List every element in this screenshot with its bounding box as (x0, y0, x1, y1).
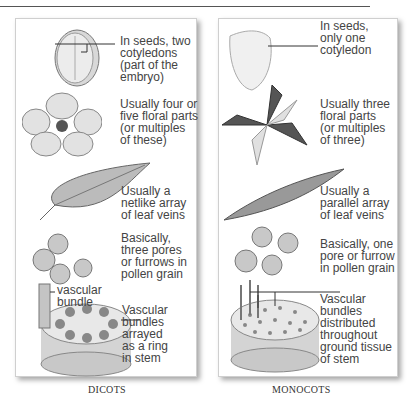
dicot-bundle-label: vascular bundle (57, 284, 102, 308)
monocot-stem-label: Vascular bundles distributed throughout … (320, 293, 392, 365)
dicot-flower-icon (22, 92, 102, 157)
dicot-stem-label: Vascular bundles arrayed as a ring in st… (122, 304, 168, 364)
monocots-caption: MONOCOTS (272, 384, 331, 395)
dicots-caption: DICOTS (88, 384, 126, 395)
monocot-flower-icon (222, 85, 312, 170)
monocot-pollen-label: Basically, one pore or furrow in pollen … (320, 238, 395, 274)
dicot-leaf-label: Usually a netlike array of leaf veins (121, 185, 186, 221)
monocot-pollen-icon (232, 225, 302, 280)
dicot-pollen-label: Basically, three pores or furrows in pol… (121, 232, 187, 280)
dicot-pollen-icon (28, 232, 98, 287)
monocot-leaf-label: Usually a parallel array of leaf veins (320, 185, 389, 221)
monocot-flower-label: Usually three floral parts (or multiples… (320, 98, 390, 146)
top-rule (0, 6, 370, 7)
dicot-seed-label: In seeds, two cotyledons (part of the em… (120, 35, 191, 83)
monocot-seed-icon (218, 28, 318, 93)
dicot-flower-label: Usually four or five floral parts (or mu… (120, 98, 198, 146)
monocot-seed-label: In seeds, only one cotyledon (320, 20, 371, 56)
dicot-seed-icon (45, 28, 125, 88)
